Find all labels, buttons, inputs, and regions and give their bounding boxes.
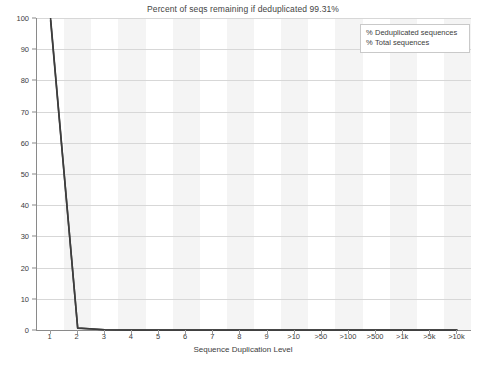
x-axis-tick-label: >50 bbox=[307, 331, 334, 345]
y-axis-tick-label: 100 bbox=[1, 14, 29, 23]
x-axis-tick-label: >5k bbox=[416, 331, 443, 345]
y-axis-tick-label: 0 bbox=[1, 326, 29, 335]
plot-area bbox=[36, 18, 471, 331]
series-svg bbox=[37, 18, 471, 330]
chart-title: Percent of seqs remaining if deduplicate… bbox=[0, 4, 486, 14]
legend-marker-deduplicated: % bbox=[366, 28, 373, 38]
y-axis-tick-label: 70 bbox=[1, 107, 29, 116]
x-axis-tick-label: >1k bbox=[389, 331, 416, 345]
x-axis-tick-label: 5 bbox=[145, 331, 172, 345]
x-axis-tick-label: 6 bbox=[172, 331, 199, 345]
x-axis-tick-label: >10 bbox=[280, 331, 307, 345]
x-axis-tick-label: >500 bbox=[362, 331, 389, 345]
y-axis-tick-label: 30 bbox=[1, 232, 29, 241]
y-axis-tick-label: 40 bbox=[1, 201, 29, 210]
series-line-total bbox=[51, 18, 458, 330]
legend[interactable]: % Deduplicated sequences % Total sequenc… bbox=[360, 24, 470, 53]
y-axis-tick-label: 80 bbox=[1, 76, 29, 85]
x-axis-ticks: 123456789>10>50>100>500>1k>5k>10k bbox=[36, 331, 470, 345]
legend-marker-total: % bbox=[366, 38, 373, 48]
y-axis-ticks: 0102030405060708090100 bbox=[0, 18, 32, 330]
legend-label-deduplicated: Deduplicated sequences bbox=[375, 28, 457, 38]
legend-label-total: Total sequences bbox=[375, 38, 429, 48]
x-axis-tick-label: 4 bbox=[117, 331, 144, 345]
x-axis-tick-label: 1 bbox=[36, 331, 63, 345]
duplication-level-chart: Percent of seqs remaining if deduplicate… bbox=[0, 0, 486, 369]
y-axis-tick-label: 90 bbox=[1, 45, 29, 54]
x-axis-tick-label: 7 bbox=[199, 331, 226, 345]
y-axis-tick-label: 60 bbox=[1, 138, 29, 147]
series-line-deduplicated bbox=[51, 20, 458, 330]
x-axis-label: Sequence Duplication Level bbox=[0, 345, 486, 354]
x-axis-tick-label: 9 bbox=[253, 331, 280, 345]
y-axis-tick-label: 50 bbox=[1, 170, 29, 179]
legend-item-deduplicated[interactable]: % Deduplicated sequences bbox=[366, 28, 464, 38]
series-layer bbox=[37, 18, 471, 330]
x-axis-tick-label: 2 bbox=[63, 331, 90, 345]
x-axis-tick-label: 3 bbox=[90, 331, 117, 345]
y-axis-tick-label: 20 bbox=[1, 263, 29, 272]
y-axis-tick-label: 10 bbox=[1, 294, 29, 303]
legend-item-total[interactable]: % Total sequences bbox=[366, 38, 464, 48]
x-axis-tick-label: >100 bbox=[334, 331, 361, 345]
x-axis-tick-label: 8 bbox=[226, 331, 253, 345]
x-axis-tick-label: >10k bbox=[443, 331, 470, 345]
